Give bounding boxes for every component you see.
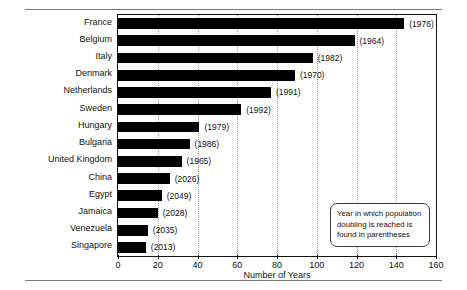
bar: [118, 70, 295, 81]
category-label: Egypt: [89, 189, 112, 199]
category-label: Hungary: [78, 120, 112, 130]
tick-label: 120: [349, 260, 364, 270]
legend-annotation-box: Year in which population doubling is rea…: [330, 203, 430, 247]
bar-row: (1979): [118, 122, 436, 133]
category-label: Jamaica: [78, 206, 112, 216]
bar: [118, 87, 271, 98]
category-label: United Kingdom: [48, 154, 112, 164]
bar-row: (2049): [118, 190, 436, 201]
category-label: Belgium: [79, 34, 112, 44]
tick-mark: [237, 255, 238, 259]
bar-row: (1982): [118, 53, 436, 64]
bar-row: (1986): [118, 139, 436, 150]
bar-value-label: (1970): [300, 70, 325, 80]
tick-mark: [436, 255, 437, 259]
bar-value-label: (1965): [187, 156, 212, 166]
category-label: Italy: [95, 51, 112, 61]
tick-mark: [396, 255, 397, 259]
tick-label: 100: [309, 260, 324, 270]
bar-row: (1964): [118, 35, 436, 46]
bar-value-label: (2028): [163, 208, 188, 218]
tick-label: 80: [272, 260, 282, 270]
tick-label: 160: [428, 260, 443, 270]
category-label: Denmark: [75, 68, 112, 78]
bar-value-label: (2049): [167, 191, 192, 201]
tick-label: 40: [192, 260, 202, 270]
category-axis-labels: FranceBelgiumItalyDenmarkNetherlandsSwed…: [0, 14, 112, 257]
tick-mark: [317, 255, 318, 259]
bar: [118, 156, 182, 167]
category-label: France: [84, 17, 112, 27]
bar: [118, 53, 313, 64]
bar-value-label: (1991): [276, 87, 301, 97]
bar-row: (2026): [118, 173, 436, 184]
tick-label: 60: [232, 260, 242, 270]
category-label: China: [88, 172, 112, 182]
tick-label: 0: [115, 260, 120, 270]
bar: [118, 190, 162, 201]
bar: [118, 242, 146, 253]
bar: [118, 225, 148, 236]
bar-value-label: (2026): [175, 174, 200, 184]
bar: [118, 173, 170, 184]
bar-value-label: (2013): [151, 242, 176, 252]
bar: [118, 208, 158, 219]
bar: [118, 35, 355, 46]
tick-label: 20: [153, 260, 163, 270]
tick-mark: [277, 255, 278, 259]
bar: [118, 104, 241, 115]
bar-value-label: (1979): [204, 122, 229, 132]
tick-mark: [198, 255, 199, 259]
bar-row: (1976): [118, 18, 436, 29]
category-label: Bulgaria: [79, 137, 112, 147]
bar-row: (1965): [118, 156, 436, 167]
tick-mark: [158, 255, 159, 259]
bar-value-label: (2035): [153, 225, 178, 235]
category-label: Sweden: [79, 103, 112, 113]
category-label: Singapore: [71, 240, 112, 250]
tick-label: 140: [389, 260, 404, 270]
population-doubling-bar-chart: FranceBelgiumItalyDenmarkNetherlandsSwed…: [0, 0, 467, 290]
category-label: Netherlands: [63, 85, 112, 95]
bar-row: (1991): [118, 87, 436, 98]
bar-value-label: (1992): [246, 105, 271, 115]
bar-row: (1992): [118, 104, 436, 115]
x-axis-title: Number of Years: [117, 270, 437, 280]
bar: [118, 122, 199, 133]
bar: [118, 139, 190, 150]
category-label: Venezuela: [70, 223, 112, 233]
bar-row: (1970): [118, 70, 436, 81]
bar-value-label: (1982): [318, 53, 343, 63]
bar-value-label: (1986): [195, 139, 220, 149]
tick-mark: [118, 255, 119, 259]
bar-value-label: (1976): [409, 19, 434, 29]
tick-mark: [357, 255, 358, 259]
bar-value-label: (1964): [360, 36, 385, 46]
bar: [118, 18, 404, 29]
